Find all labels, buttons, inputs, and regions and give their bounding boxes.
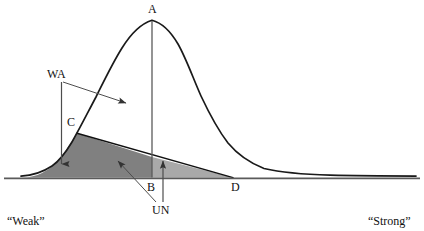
axis-caption-strong: “Strong” Workers [368,189,411,231]
annotation-label-wa: WA [47,68,66,80]
point-label-b: B [147,181,155,193]
distribution-diagram [0,0,424,231]
axis-caption-strong-line1: “Strong” [368,215,411,228]
axis-caption-weak: “Weak” Workers [7,189,47,231]
point-label-a: A [148,3,157,15]
figure-container: A C B D WA UN “Weak” Workers “Strong” Wo… [0,0,424,231]
point-label-c: C [67,116,75,128]
axis-caption-weak-line1: “Weak” [7,215,47,228]
point-label-d: D [231,181,240,193]
annotation-label-un: UN [152,204,169,216]
